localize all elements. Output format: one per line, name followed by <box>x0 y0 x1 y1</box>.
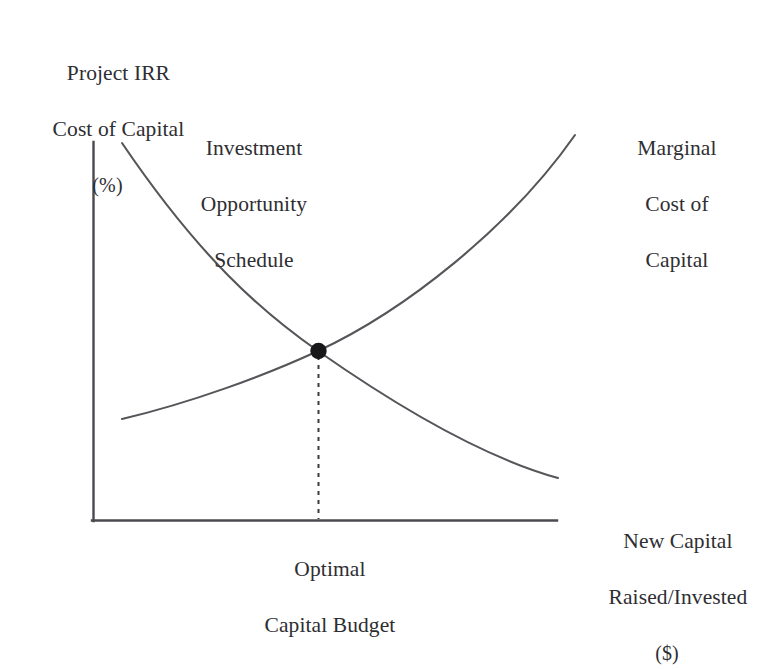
optimal-capital-budget-label: Optimal Capital Budget <box>215 528 423 668</box>
x-axis-title: New Capital Raised/Invested ($) <box>576 500 758 669</box>
y-axis-title-line1: Project IRR <box>67 61 170 85</box>
ios-label-line1: Investment <box>206 136 303 160</box>
mcc-label-line3: Capital <box>646 248 709 272</box>
intersection-point-marker <box>310 343 326 359</box>
mcc-label-line1: Marginal <box>637 136 716 160</box>
x-axis-title-line1: New Capital <box>623 529 732 553</box>
marginal-cost-of-capital-label: Marginal Cost of Capital <box>596 107 736 303</box>
optimal-label-line2: Capital Budget <box>264 613 395 637</box>
investment-opportunity-schedule-label: Investment Opportunity Schedule <box>162 107 324 303</box>
optimal-label-line1: Optimal <box>294 557 365 581</box>
x-axis-title-line2: Raised/Invested <box>609 585 748 609</box>
mcc-label-line2: Cost of <box>645 192 708 216</box>
ios-label-line3: Schedule <box>214 248 294 272</box>
ios-label-line2: Opportunity <box>201 192 307 216</box>
x-axis-unit: ($) <box>576 640 758 666</box>
